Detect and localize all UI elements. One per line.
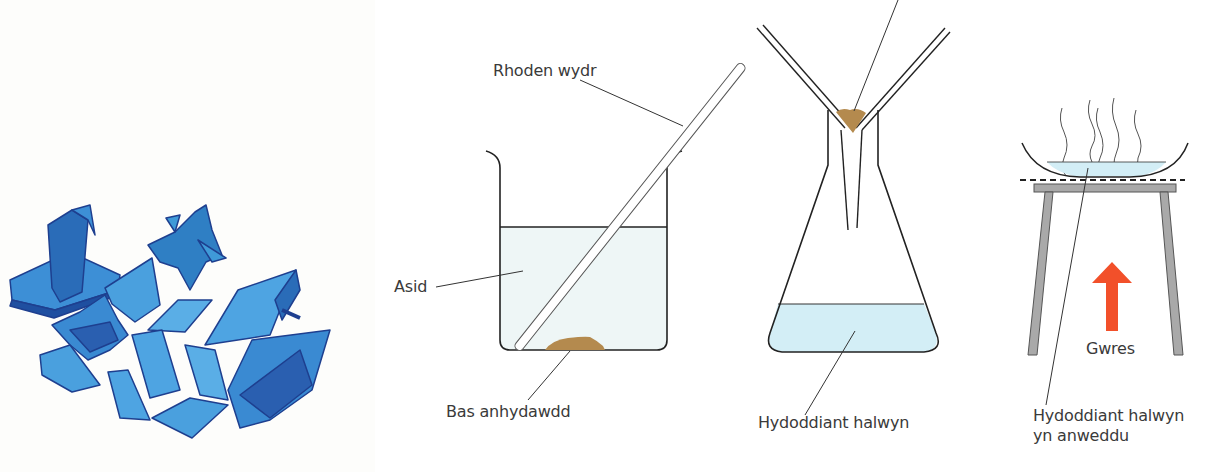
copper-sulfate-crystals-photo (0, 0, 375, 472)
label-insoluble-base: Bas anhydawdd (446, 402, 571, 422)
filtration-apparatus (757, 0, 950, 415)
tripod-leg-left (1028, 192, 1053, 355)
base-leader (528, 351, 570, 400)
label-heat: Gwres (1086, 339, 1135, 359)
beaker-apparatus (436, 62, 747, 400)
diagram-canvas (0, 0, 1221, 472)
tripod-top (1034, 184, 1176, 192)
label-salt-solution: Hydoddiant halwyn (758, 413, 909, 433)
glass-rod-leader (580, 80, 683, 126)
label-acid: Asid (394, 277, 427, 297)
label-glass-rod: Rhoden wydr (493, 61, 596, 81)
residue-leader (854, 0, 898, 111)
salt-preparation-diagram: Rhoden wydr Asid Bas anhydawdd Hydoddian… (0, 0, 1221, 472)
label-evaporating-solution-line1: Hydoddiant halwyn (1033, 406, 1184, 426)
label-evaporating-solution-line2: yn anweddu (1033, 426, 1129, 446)
salt-solution-liquid (769, 304, 937, 352)
tripod-leg-right (1160, 192, 1183, 355)
heat-arrow-icon (1092, 262, 1132, 331)
